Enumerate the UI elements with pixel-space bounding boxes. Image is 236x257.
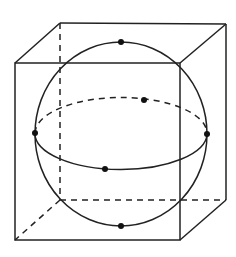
sphere-in-cube-diagram: [0, 0, 236, 257]
cube-top-back-edge: [60, 23, 226, 24]
sphere-outline: [35, 42, 207, 226]
cube-top-right-edge: [180, 24, 226, 63]
cube-bottom-right-depth-edge: [180, 200, 226, 240]
cube-top-left-edge: [15, 23, 60, 63]
point-left: [32, 130, 38, 136]
cube-hidden-edge-depth: [15, 200, 60, 240]
point-bottom: [118, 223, 124, 229]
point-front: [102, 166, 108, 172]
point-right: [204, 131, 210, 137]
equator-back-half: [35, 97, 207, 134]
cube-front-face: [15, 63, 180, 240]
point-back: [141, 97, 147, 103]
equator-front-half: [35, 133, 207, 170]
point-top: [118, 39, 124, 45]
